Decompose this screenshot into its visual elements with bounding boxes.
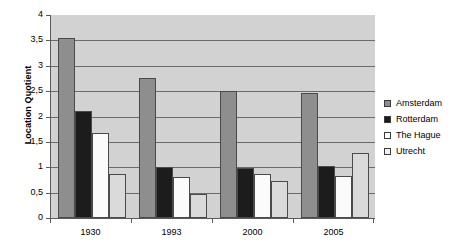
bar-group-1930 [51, 15, 132, 218]
legend-label: Amsterdam [396, 98, 442, 108]
x-axis-category-1993: 1993 [131, 219, 212, 243]
bar-group-2000 [213, 15, 294, 218]
x-axis-tick-mark [373, 219, 374, 223]
y-axis-tick-label: 1 [38, 161, 43, 171]
y-axis-tick-label: 4 [38, 9, 43, 19]
y-axis-tick-label: 2,5 [30, 85, 43, 95]
bar-group-2005 [294, 15, 375, 218]
bar-amsterdam-1993[interactable] [139, 78, 156, 218]
bar-amsterdam-1930[interactable] [58, 38, 75, 218]
legend-label: The Hague [396, 130, 441, 140]
location-quotient-bar-chart: Location Quotient 00,511,522,533,54 1930… [0, 0, 454, 250]
x-axis-category-2000: 2000 [212, 219, 293, 243]
y-axis-tick-label: 0 [38, 212, 43, 222]
bar-amsterdam-2005[interactable] [301, 93, 318, 218]
x-axis-tick-label: 1993 [131, 227, 212, 237]
legend-label: Utrecht [396, 146, 425, 156]
bar-rotterdam-2000[interactable] [237, 168, 254, 218]
bar-utrecht-1930[interactable] [109, 174, 126, 218]
bar-thehague-1993[interactable] [173, 177, 190, 218]
bar-group-1993 [132, 15, 213, 218]
x-axis-tick-mark [212, 219, 213, 223]
y-axis-tick-label: 0,5 [30, 187, 43, 197]
legend-swatch-icon [384, 116, 391, 123]
bar-rotterdam-1930[interactable] [75, 111, 92, 218]
bar-utrecht-1993[interactable] [190, 194, 207, 218]
plot-area [50, 15, 375, 219]
y-axis-ticks: 00,511,522,533,54 [0, 15, 50, 218]
x-axis-tick-mark [131, 219, 132, 223]
bar-rotterdam-2005[interactable] [318, 166, 335, 218]
legend: AmsterdamRotterdamThe HagueUtrecht [384, 96, 454, 160]
x-axis-tick-label: 2000 [212, 227, 293, 237]
bar-amsterdam-2000[interactable] [220, 91, 237, 218]
bar-utrecht-2000[interactable] [271, 181, 288, 218]
legend-item-rotterdam[interactable]: Rotterdam [384, 112, 454, 126]
bar-thehague-2005[interactable] [335, 176, 352, 218]
bar-thehague-2000[interactable] [254, 174, 271, 218]
x-axis-tick-label: 1930 [50, 227, 131, 237]
x-axis-category-1930: 1930 [50, 219, 131, 243]
x-axis-tick-mark [50, 219, 51, 223]
y-axis-tick-label: 1,5 [30, 136, 43, 146]
y-axis-tick-label: 3,5 [30, 34, 43, 44]
legend-item-utrecht[interactable]: Utrecht [384, 144, 454, 158]
x-axis-tick-mark [293, 219, 294, 223]
x-axis-tick-label: 2005 [293, 227, 374, 237]
y-axis-tick-label: 2 [38, 111, 43, 121]
y-axis-tick-label: 3 [38, 60, 43, 70]
legend-swatch-icon [384, 132, 391, 139]
legend-label: Rotterdam [396, 114, 438, 124]
legend-swatch-icon [384, 148, 391, 155]
bar-thehague-1930[interactable] [92, 133, 109, 218]
legend-item-amsterdam[interactable]: Amsterdam [384, 96, 454, 110]
bar-rotterdam-1993[interactable] [156, 167, 173, 218]
bars-layer [51, 15, 375, 218]
x-axis: 1930199320002005 [50, 219, 374, 243]
legend-item-thehague[interactable]: The Hague [384, 128, 454, 142]
x-axis-category-2005: 2005 [293, 219, 374, 243]
bar-utrecht-2005[interactable] [352, 153, 369, 218]
legend-swatch-icon [384, 100, 391, 107]
